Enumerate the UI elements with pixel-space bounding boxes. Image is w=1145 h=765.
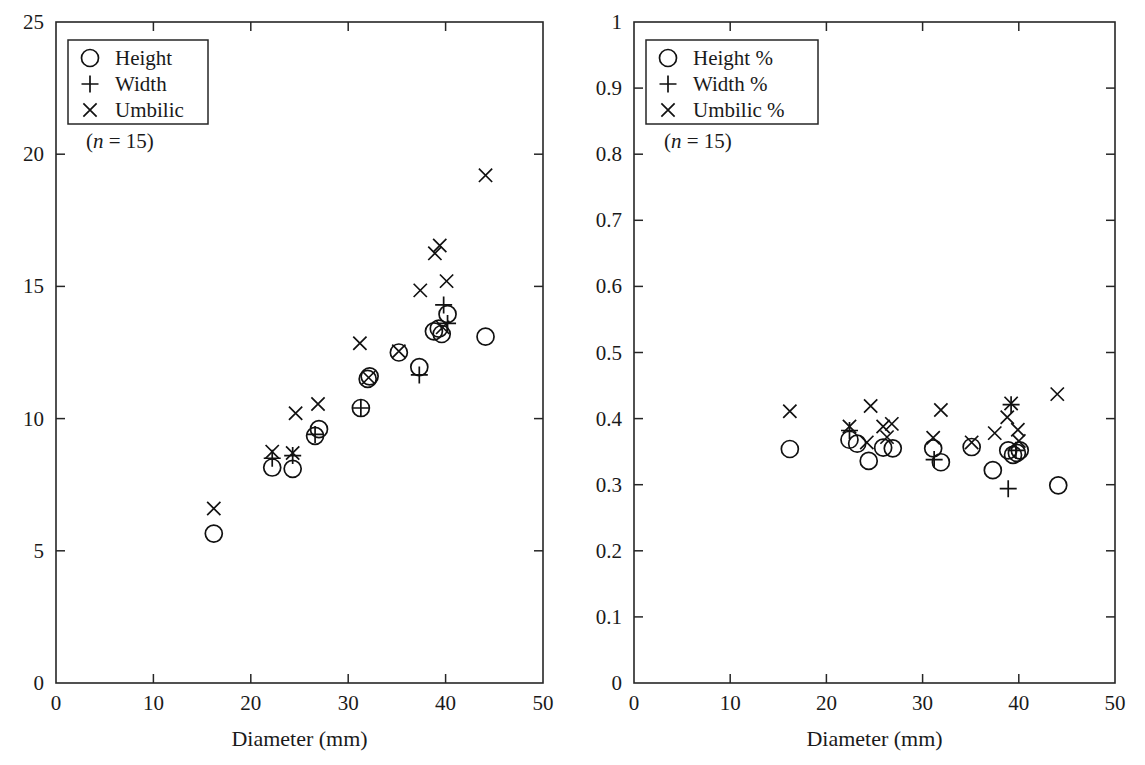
y-tick-label-right-2: 0.2	[596, 539, 622, 563]
data-point-cross	[440, 274, 453, 287]
data-point-circle	[205, 525, 222, 542]
x-tick-label-left-0: 0	[51, 691, 62, 715]
data-point-plus	[435, 296, 452, 313]
y-tick-label-right-1: 0.1	[596, 605, 622, 629]
data-point-plus	[284, 447, 301, 464]
figure-svg: 010203040500510152025Diameter (mm)Height…	[0, 0, 1145, 765]
data-point-cross	[783, 405, 796, 418]
data-point-cross	[392, 345, 405, 358]
legend-label-left-0: Height	[115, 46, 172, 70]
data-point-cross	[877, 420, 890, 433]
data-point-plus	[841, 422, 858, 439]
y-tick-label-left-4: 20	[23, 142, 44, 166]
sample-size-note-left: (n = 15)	[86, 129, 154, 153]
legend-label-right-2: Umbilic %	[693, 98, 785, 122]
data-point-cross	[207, 502, 220, 515]
data-point-cross	[1001, 411, 1014, 424]
y-tick-label-right-3: 0.3	[596, 473, 622, 497]
data-point-circle	[390, 344, 407, 361]
data-point-cross	[988, 427, 1001, 440]
x-tick-label-left-4: 40	[435, 691, 456, 715]
data-point-cross	[414, 284, 427, 297]
x-axis-label-right: Diameter (mm)	[806, 726, 942, 751]
x-axis-label-left: Diameter (mm)	[231, 726, 367, 751]
x-tick-label-right-3: 30	[912, 691, 933, 715]
data-point-circle	[860, 452, 877, 469]
data-point-plus	[411, 366, 428, 383]
data-point-cross	[479, 169, 492, 182]
y-tick-label-right-7: 0.7	[596, 208, 622, 232]
y-tick-label-right-8: 0.8	[596, 142, 622, 166]
y-tick-label-left-5: 25	[23, 10, 44, 34]
legend-label-right-0: Height %	[693, 46, 773, 70]
data-point-cross	[864, 399, 877, 412]
data-point-cross	[433, 239, 446, 252]
x-tick-label-right-5: 50	[1105, 691, 1126, 715]
data-point-cross	[1012, 434, 1025, 447]
data-point-circle	[477, 328, 494, 345]
x-tick-label-right-1: 10	[720, 691, 741, 715]
x-tick-label-left-3: 30	[338, 691, 359, 715]
data-point-cross	[428, 247, 441, 260]
data-point-circle	[984, 462, 1001, 479]
data-point-circle	[963, 439, 980, 456]
data-points-right	[781, 388, 1066, 498]
x-tick-label-left-1: 10	[143, 691, 164, 715]
legend-label-right-1: Width %	[693, 72, 767, 96]
data-point-cross	[362, 371, 375, 384]
legend-right: Height %Width %Umbilic %	[646, 40, 818, 124]
data-point-cross	[860, 436, 873, 449]
data-point-plus	[1003, 396, 1020, 413]
panel-left: 010203040500510152025Diameter (mm)Height…	[23, 10, 554, 751]
x-tick-label-right-0: 0	[629, 691, 640, 715]
data-points-left	[205, 169, 494, 542]
x-tick-label-left-2: 20	[240, 691, 261, 715]
data-point-plus	[1000, 480, 1017, 497]
panel-right: 0102030405000.10.20.30.40.50.60.70.80.91…	[596, 10, 1126, 751]
x-tick-label-right-4: 40	[1008, 691, 1029, 715]
y-tick-label-right-9: 0.9	[596, 76, 622, 100]
figure-container: 010203040500510152025Diameter (mm)Height…	[0, 0, 1145, 765]
data-point-cross	[934, 403, 947, 416]
x-tick-label-left-5: 50	[533, 691, 554, 715]
data-point-plus	[307, 426, 324, 443]
data-point-cross	[927, 431, 940, 444]
y-tick-label-right-10: 1	[612, 10, 623, 34]
y-tick-label-left-0: 0	[34, 671, 45, 695]
y-tick-label-right-5: 0.5	[596, 341, 622, 365]
y-tick-label-right-0: 0	[612, 671, 623, 695]
data-point-cross	[311, 397, 324, 410]
data-point-circle	[781, 441, 798, 458]
legend-label-left-1: Width	[115, 72, 167, 96]
sample-size-note-right: (n = 15)	[664, 129, 732, 153]
data-point-cross	[289, 407, 302, 420]
y-tick-label-right-4: 0.4	[596, 407, 623, 431]
y-tick-label-right-6: 0.6	[596, 274, 622, 298]
data-point-circle	[1050, 477, 1067, 494]
data-point-cross	[1051, 388, 1064, 401]
y-tick-label-left-2: 10	[23, 407, 44, 431]
data-point-cross	[353, 337, 366, 350]
data-point-cross	[885, 417, 898, 430]
legend-left: HeightWidthUmbilic	[68, 40, 208, 124]
y-tick-label-left-1: 5	[34, 539, 45, 563]
y-tick-label-left-3: 15	[23, 274, 44, 298]
legend-label-left-2: Umbilic	[115, 98, 184, 122]
x-tick-label-right-2: 20	[816, 691, 837, 715]
